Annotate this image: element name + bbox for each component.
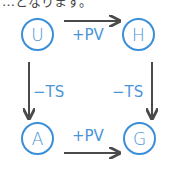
node-u: U	[21, 18, 54, 51]
edge-label-u-h: +PV	[72, 26, 104, 44]
node-a: A	[21, 122, 54, 155]
edge-label-a-g: +PV	[72, 127, 104, 145]
edge-label-u-a: −TS	[33, 83, 64, 101]
edge-label-h-g: −TS	[112, 83, 143, 101]
node-g: G	[123, 122, 156, 155]
node-h: H	[122, 18, 155, 51]
